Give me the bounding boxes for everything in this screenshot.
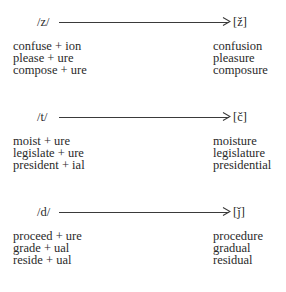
- target-phone: [č]: [233, 109, 247, 125]
- output-item: composure: [213, 64, 268, 76]
- rule-row: /t/ [č]: [0, 109, 286, 125]
- input-item: compose + ure: [13, 64, 87, 76]
- arrow-line: [59, 22, 229, 23]
- output-list: moisture legislature presidential: [213, 135, 271, 172]
- target-phone: [ǰ]: [233, 204, 245, 220]
- rule-row: /d/ [ǰ]: [0, 204, 286, 220]
- input-list: proceed + ure grade + ual reside + ual: [13, 230, 82, 267]
- output-list: procedure gradual residual: [213, 230, 263, 267]
- output-item: residual: [213, 254, 263, 266]
- arrow-right-icon: [222, 207, 231, 216]
- arrow-line: [59, 212, 229, 213]
- input-item: president + ial: [13, 159, 85, 171]
- target-phone: [ž]: [233, 14, 247, 30]
- arrow-line: [59, 117, 229, 118]
- input-list: moist + ure legislate + ure president + …: [13, 135, 85, 172]
- source-phoneme: /t/: [37, 109, 47, 125]
- input-list: confuse + ion please + ure compose + ure: [13, 40, 87, 77]
- input-item: reside + ual: [13, 254, 82, 266]
- rule-row: /z/ [ž]: [0, 14, 286, 30]
- source-phoneme: /z/: [37, 14, 50, 30]
- arrow-right-icon: [222, 17, 231, 26]
- arrow-right-icon: [222, 112, 231, 121]
- source-phoneme: /d/: [37, 204, 50, 220]
- output-list: confusion pleasure composure: [213, 40, 268, 77]
- output-item: presidential: [213, 159, 271, 171]
